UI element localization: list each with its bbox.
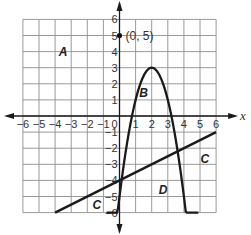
y-tick-label: 2 (111, 78, 117, 90)
x-tick-label: 3 (165, 118, 171, 130)
y-axis-down-arrow-icon (117, 224, 123, 234)
x-tick-label: −2 (81, 118, 94, 130)
region-label-c: C (200, 152, 209, 166)
parabola-curve (107, 68, 199, 213)
origin-label: 0 (111, 118, 117, 130)
coordinate-plane-chart: x −6−5−4−3−2−1123456−6−5−4−3−2−11234560 … (0, 0, 251, 235)
region-label-d: D (159, 183, 168, 197)
y-tick-label: 3 (111, 62, 117, 74)
region-label-c: C (93, 198, 102, 212)
y-tick-label: −2 (105, 142, 118, 154)
region-label-a: A (58, 45, 68, 59)
x-tick-label: 2 (149, 118, 155, 130)
x-tick-label: 1 (133, 118, 139, 130)
x-tick-label: −5 (33, 118, 46, 130)
y-tick-label: 4 (111, 46, 117, 58)
x-tick-label: −6 (17, 118, 30, 130)
y-tick-label: −3 (105, 158, 118, 170)
x-axis-label: x (239, 108, 246, 123)
x-tick-label: 4 (181, 118, 187, 130)
x-axis-right-arrow-icon (228, 113, 238, 119)
x-tick-label: −4 (49, 118, 62, 130)
x-tick-label: 5 (197, 118, 203, 130)
y-tick-label: 5 (111, 30, 117, 42)
y-tick-label: 1 (111, 94, 117, 106)
y-axis-up-arrow-icon (117, 1, 123, 11)
x-tick-label: −3 (65, 118, 78, 130)
y-tick-label: −5 (105, 191, 118, 203)
x-axis-left-arrow-icon (4, 113, 14, 119)
y-tick-label: 6 (111, 13, 117, 25)
x-tick-label: 6 (213, 118, 219, 130)
point-marker (117, 33, 122, 38)
region-label-b: B (139, 86, 148, 100)
point-label: (0, 5) (126, 29, 154, 43)
